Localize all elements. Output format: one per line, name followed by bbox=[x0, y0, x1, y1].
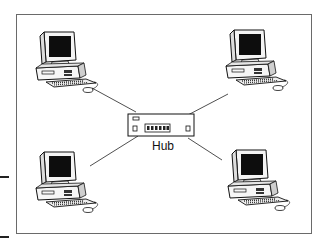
computer-bottom-left bbox=[36, 152, 98, 213]
hub-device bbox=[128, 114, 194, 136]
cable-top-right bbox=[186, 94, 228, 116]
network-diagram bbox=[0, 0, 322, 243]
cable-top-left bbox=[92, 88, 136, 112]
hub-label: Hub bbox=[152, 139, 174, 153]
cable-bottom-right bbox=[188, 138, 222, 160]
computer-top-left bbox=[36, 32, 98, 93]
computer-top-right bbox=[226, 30, 288, 91]
cable-bottom-left bbox=[90, 136, 138, 166]
computer-bottom-right bbox=[228, 150, 290, 211]
